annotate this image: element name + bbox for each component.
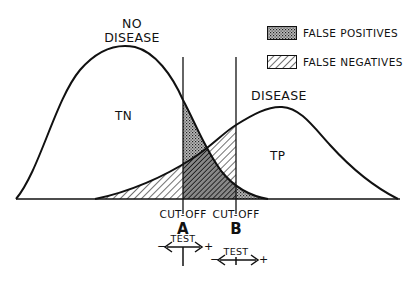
test-arrow-a [165, 242, 202, 266]
test-a-minus: − [157, 241, 167, 252]
cutoff-a-label: CUT-OFF [153, 209, 213, 220]
no-disease-label-line2: DISEASE [96, 32, 168, 45]
legend-false-negatives-label: FALSE NEGATIVES [303, 56, 403, 68]
test-b-label: TEST [216, 247, 256, 257]
true-negative-label: TN [115, 110, 132, 122]
cutoff-b-label: CUT-OFF [206, 209, 266, 220]
test-b-minus: − [210, 254, 220, 265]
false-positives-swatch-icon [267, 26, 297, 40]
legend-false-negatives: FALSE NEGATIVES [267, 55, 403, 69]
true-positive-label: TP [270, 150, 285, 162]
test-b-plus: + [259, 254, 269, 265]
false-negatives-swatch-icon [267, 55, 297, 69]
legend-false-positives: FALSE POSITIVES [267, 26, 398, 40]
legend-false-positives-label: FALSE POSITIVES [303, 27, 398, 39]
no-disease-label-line1: NO [102, 18, 162, 31]
disease-curve [95, 107, 398, 199]
disease-label: DISEASE [251, 90, 307, 103]
test-a-plus: + [204, 241, 214, 252]
cutoff-b-letter: B [216, 222, 256, 237]
test-a-label: TEST [163, 234, 203, 244]
